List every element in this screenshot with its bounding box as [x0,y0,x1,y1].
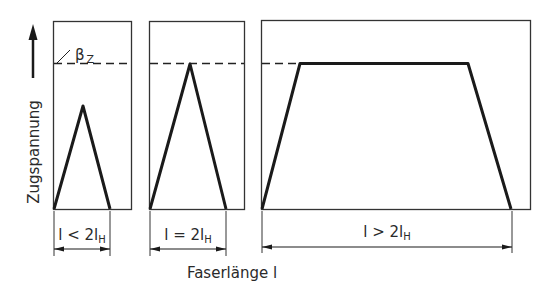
dimension-label-short: l < 2lH [58,226,106,245]
dimension-label-long: l > 2lH [363,223,411,242]
stress-curve-critical [150,64,226,209]
strength-leader-line [56,50,70,64]
stress-curve-long [262,64,511,210]
dimension-label-critical: l = 2lH [164,226,212,245]
panel-long-frame [262,21,531,210]
panel-critical-frame [150,22,245,210]
dimension-extension-lines [54,211,512,256]
y-axis-label: Zugspannung [25,100,43,203]
panel-short-frame [54,22,132,210]
fiber-stress-diagram: Zugspannung βZ l < 2lH l = 2lH l > 2lH [0,0,558,299]
y-axis-arrow-icon [29,24,38,78]
x-axis-label: Faserlänge l [187,264,277,282]
stress-curve-short [54,106,110,209]
